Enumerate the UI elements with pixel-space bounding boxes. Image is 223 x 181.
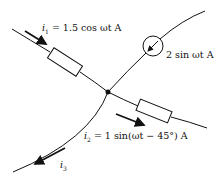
resistor-1 <box>47 48 82 77</box>
junction-node <box>106 90 111 95</box>
resistor-2 <box>136 99 172 123</box>
wire-branch-2 <box>108 92 138 106</box>
wire-branch-2b <box>171 117 207 128</box>
arrow-i2 <box>116 114 144 125</box>
i1-expression: = 1.5 cos ωt A <box>49 22 122 33</box>
i2-expression: = 1 sin(ωt − 45°) A <box>91 130 188 141</box>
i3-subscript: 3 <box>63 165 67 172</box>
wire-source-lower <box>108 53 146 92</box>
label-i2: i2 = 1 sin(ωt − 45°) A <box>84 131 188 143</box>
current-source <box>143 36 163 56</box>
label-source: 2 sin ωt A <box>166 50 214 60</box>
label-i3: i3 <box>60 160 67 172</box>
source-expression: 2 sin ωt A <box>166 49 214 60</box>
label-i1: i1 = 1.5 cos ωt A <box>42 23 121 35</box>
wire-branch-1b <box>80 72 108 92</box>
wire-source-upper <box>160 11 205 39</box>
